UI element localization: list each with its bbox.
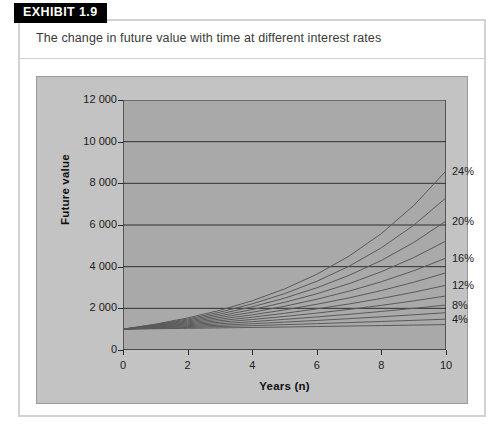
gridlines: [123, 100, 446, 350]
x-tick-label: 8: [361, 360, 401, 371]
y-tick-label: 10 000: [57, 136, 117, 147]
y-tick-label: 6 000: [57, 219, 117, 230]
x-tick-mark: [123, 350, 124, 355]
y-tick-mark: [118, 225, 123, 226]
rate-label-4pct: 4%: [452, 314, 468, 325]
rate-label-8pct: 8%: [452, 300, 468, 311]
y-tick-label: 0: [57, 344, 117, 355]
x-tick-label: 10: [426, 360, 466, 371]
exhibit-caption: The change in future value with time at …: [36, 31, 381, 45]
y-axis-ticks: 02 0004 0006 0008 00010 00012 000: [53, 77, 117, 403]
exhibit-figure: EXHIBIT 1.9 The change in future value w…: [0, 0, 504, 439]
x-tick-label: 4: [232, 360, 272, 371]
y-tick-label: 2 000: [57, 302, 117, 313]
rate-label-16pct: 16%: [452, 253, 474, 264]
caption-row: The change in future value with time at …: [20, 21, 484, 59]
y-tick-mark: [118, 308, 123, 309]
plot-svg: [123, 100, 446, 350]
x-tick-mark: [317, 350, 318, 355]
chart-container: Future value Years (n) 02 0004 0006 0008…: [36, 76, 468, 404]
exhibit-tag: EXHIBIT 1.9: [14, 3, 107, 23]
x-tick-label: 2: [168, 360, 208, 371]
y-tick-mark: [118, 142, 123, 143]
curve-24pct: [123, 171, 446, 329]
x-tick-mark: [381, 350, 382, 355]
y-tick-mark: [118, 100, 123, 101]
y-tick-label: 8 000: [57, 177, 117, 188]
x-tick-mark: [252, 350, 253, 355]
rate-label-12pct: 12%: [452, 280, 474, 291]
y-tick-label: 12 000: [57, 94, 117, 105]
x-tick-label: 6: [297, 360, 337, 371]
exhibit-panel: The change in future value with time at …: [18, 19, 486, 417]
x-tick-mark: [188, 350, 189, 355]
y-tick-mark: [118, 183, 123, 184]
x-axis-title: Years (n): [123, 380, 446, 392]
rate-label-20pct: 20%: [452, 216, 474, 227]
y-tick-mark: [118, 267, 123, 268]
plot-area: [123, 100, 446, 350]
curve-group: [123, 171, 446, 329]
x-tick-label: 0: [103, 360, 143, 371]
y-tick-label: 4 000: [57, 261, 117, 272]
rate-label-24pct: 24%: [452, 166, 474, 177]
x-tick-mark: [446, 350, 447, 355]
